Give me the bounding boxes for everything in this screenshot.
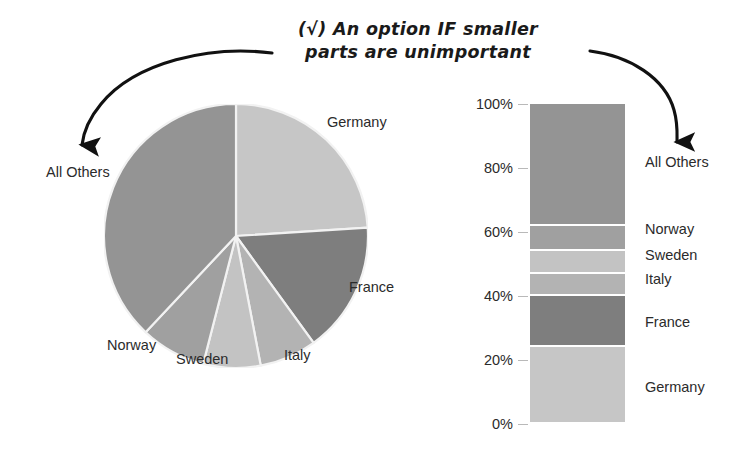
bar-segment-italy xyxy=(530,274,625,296)
y-axis-tick-mark xyxy=(518,232,528,233)
pie-label-all-others: All Others xyxy=(46,164,110,180)
y-axis-tick-20pct: 20% xyxy=(455,352,513,368)
bar-label-france: France xyxy=(645,314,690,330)
bar-segment-sweden xyxy=(530,251,625,273)
y-axis-tick-100pct: 100% xyxy=(455,96,513,112)
bar-label-all-others: All Others xyxy=(645,154,709,170)
bar-segment-all-others xyxy=(530,104,625,226)
slide-canvas: (√) An option IF smaller parts are unimp… xyxy=(0,0,753,454)
pie-label-germany: Germany xyxy=(327,114,387,130)
page-title-line-1: (√) An option IF smaller xyxy=(268,18,568,41)
y-axis-tick-mark xyxy=(518,104,528,105)
pie-slice-group xyxy=(104,104,368,368)
pie-chart xyxy=(104,104,368,368)
page-title: (√) An option IF smaller parts are unimp… xyxy=(268,18,568,64)
bar-label-germany: Germany xyxy=(645,379,705,395)
pie-label-italy: Italy xyxy=(284,347,311,363)
y-axis-tick-mark xyxy=(518,424,528,425)
y-axis-tick-mark xyxy=(518,168,528,169)
bar-segment-germany xyxy=(530,347,625,424)
pie-label-france: France xyxy=(349,279,394,295)
stacked-bar-column xyxy=(530,104,625,424)
page-title-line-2: parts are unimportant xyxy=(268,41,568,64)
pie-chart-svg xyxy=(104,104,368,368)
bar-segment-norway xyxy=(530,226,625,252)
pie-label-sweden: Sweden xyxy=(176,351,228,367)
bar-label-sweden: Sweden xyxy=(645,247,697,263)
bar-label-norway: Norway xyxy=(645,221,694,237)
y-axis-tick-80pct: 80% xyxy=(455,160,513,176)
y-axis-tick-60pct: 60% xyxy=(455,224,513,240)
y-axis-tick-mark xyxy=(518,360,528,361)
bar-segment-france xyxy=(530,296,625,347)
y-axis-tick-mark xyxy=(518,296,528,297)
pie-label-norway: Norway xyxy=(107,337,156,353)
bar-label-italy: Italy xyxy=(645,271,672,287)
y-axis-tick-40pct: 40% xyxy=(455,288,513,304)
y-axis-tick-0pct: 0% xyxy=(455,416,513,432)
